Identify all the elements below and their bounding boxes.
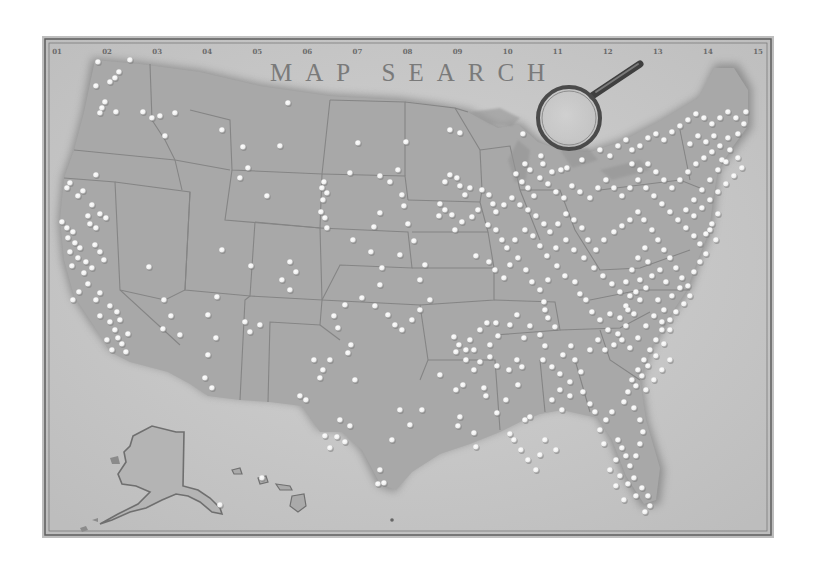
- location-marker[interactable]: [637, 297, 643, 303]
- location-marker[interactable]: [113, 109, 119, 115]
- location-marker[interactable]: [602, 347, 608, 353]
- location-marker[interactable]: [661, 177, 667, 183]
- location-marker[interactable]: [557, 387, 563, 393]
- location-marker[interactable]: [567, 393, 573, 399]
- location-marker[interactable]: [525, 457, 531, 463]
- location-marker[interactable]: [649, 273, 655, 279]
- location-marker[interactable]: [677, 177, 683, 183]
- location-marker[interactable]: [493, 227, 499, 233]
- location-marker[interactable]: [637, 277, 643, 283]
- location-marker[interactable]: [335, 325, 341, 331]
- location-marker[interactable]: [667, 327, 673, 333]
- location-marker[interactable]: [522, 417, 528, 423]
- location-marker[interactable]: [741, 121, 747, 127]
- location-marker[interactable]: [687, 293, 693, 299]
- location-marker[interactable]: [613, 483, 619, 489]
- location-marker[interactable]: [436, 213, 442, 219]
- location-marker[interactable]: [123, 349, 129, 355]
- location-marker[interactable]: [593, 247, 599, 253]
- location-marker[interactable]: [683, 225, 689, 231]
- location-marker[interactable]: [637, 417, 643, 423]
- location-marker[interactable]: [703, 231, 709, 237]
- location-marker[interactable]: [149, 115, 155, 121]
- location-marker[interactable]: [568, 343, 574, 349]
- location-marker[interactable]: [514, 312, 520, 318]
- location-marker[interactable]: [645, 363, 651, 369]
- location-marker[interactable]: [685, 169, 691, 175]
- location-marker[interactable]: [691, 233, 697, 239]
- location-marker[interactable]: [348, 342, 354, 348]
- location-marker[interactable]: [669, 293, 675, 299]
- location-marker[interactable]: [635, 209, 641, 215]
- location-marker[interactable]: [538, 153, 544, 159]
- location-marker[interactable]: [577, 291, 583, 297]
- location-marker[interactable]: [318, 209, 324, 215]
- location-marker[interactable]: [603, 177, 609, 183]
- location-marker[interactable]: [643, 185, 649, 191]
- location-marker[interactable]: [629, 161, 635, 167]
- location-marker[interactable]: [64, 185, 70, 191]
- location-marker[interactable]: [693, 111, 699, 117]
- location-marker[interactable]: [104, 337, 110, 343]
- location-marker[interactable]: [673, 309, 679, 315]
- location-marker[interactable]: [527, 167, 533, 173]
- location-marker[interactable]: [659, 367, 665, 373]
- location-marker[interactable]: [83, 259, 89, 265]
- location-marker[interactable]: [701, 155, 707, 161]
- location-marker[interactable]: [633, 289, 639, 295]
- location-marker[interactable]: [515, 255, 521, 261]
- location-marker[interactable]: [442, 207, 448, 213]
- location-marker[interactable]: [95, 59, 101, 65]
- location-marker[interactable]: [699, 205, 705, 211]
- location-marker[interactable]: [571, 247, 577, 253]
- location-marker[interactable]: [563, 211, 569, 217]
- location-marker[interactable]: [477, 359, 483, 365]
- location-marker[interactable]: [707, 197, 713, 203]
- location-marker[interactable]: [619, 445, 625, 451]
- location-marker[interactable]: [601, 441, 607, 447]
- location-marker[interactable]: [669, 185, 675, 191]
- location-marker[interactable]: [554, 263, 560, 269]
- location-marker[interactable]: [667, 357, 673, 363]
- location-marker[interactable]: [609, 409, 615, 415]
- location-marker[interactable]: [97, 110, 103, 116]
- location-marker[interactable]: [70, 229, 76, 235]
- location-marker[interactable]: [107, 319, 113, 325]
- location-marker[interactable]: [651, 313, 657, 319]
- location-marker[interactable]: [627, 463, 633, 469]
- location-marker[interactable]: [629, 267, 635, 273]
- location-marker[interactable]: [597, 147, 603, 153]
- location-marker[interactable]: [359, 295, 365, 301]
- location-marker[interactable]: [487, 354, 493, 360]
- location-marker[interactable]: [417, 307, 423, 313]
- location-marker[interactable]: [541, 221, 547, 227]
- location-marker[interactable]: [494, 410, 500, 416]
- location-marker[interactable]: [545, 181, 551, 187]
- location-marker[interactable]: [355, 140, 361, 146]
- location-marker[interactable]: [623, 137, 629, 143]
- location-marker[interactable]: [119, 341, 125, 347]
- location-marker[interactable]: [317, 375, 323, 381]
- location-marker[interactable]: [322, 215, 328, 221]
- location-marker[interactable]: [248, 263, 254, 269]
- location-marker[interactable]: [456, 342, 462, 348]
- location-marker[interactable]: [352, 377, 358, 383]
- location-marker[interactable]: [64, 225, 70, 231]
- location-marker[interactable]: [611, 229, 617, 235]
- location-marker[interactable]: [659, 327, 665, 333]
- location-marker[interactable]: [463, 347, 469, 353]
- location-marker[interactable]: [387, 179, 393, 185]
- location-marker[interactable]: [617, 473, 623, 479]
- location-marker[interactable]: [67, 249, 73, 255]
- location-marker[interactable]: [661, 341, 667, 347]
- location-marker[interactable]: [623, 323, 629, 329]
- location-marker[interactable]: [397, 252, 403, 258]
- location-marker[interactable]: [172, 110, 178, 116]
- location-marker[interactable]: [85, 281, 91, 287]
- location-marker[interactable]: [673, 265, 679, 271]
- location-marker[interactable]: [709, 121, 715, 127]
- location-marker[interactable]: [493, 320, 499, 326]
- location-marker[interactable]: [537, 243, 543, 249]
- location-marker[interactable]: [659, 201, 665, 207]
- location-marker[interactable]: [739, 165, 745, 171]
